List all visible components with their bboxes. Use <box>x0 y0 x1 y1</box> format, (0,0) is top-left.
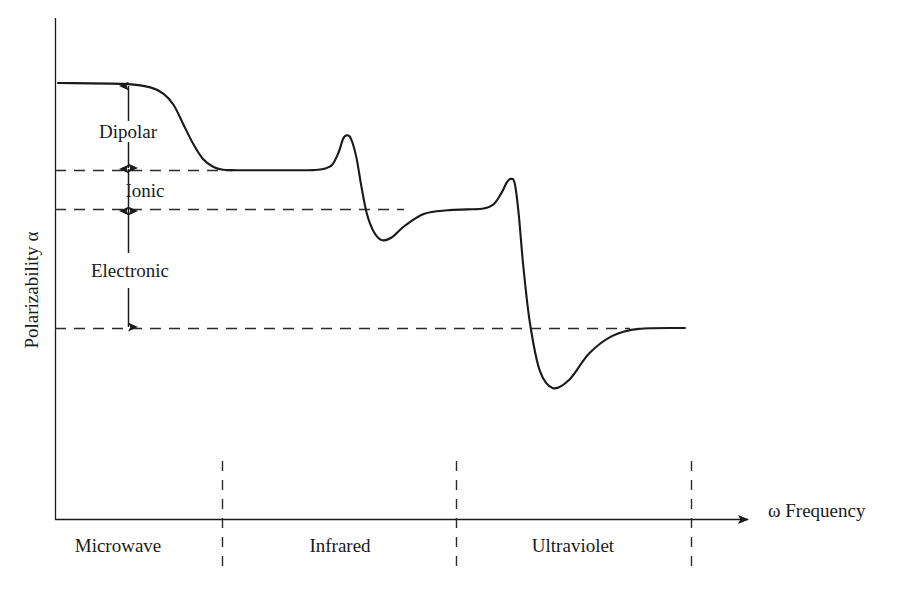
y-axis-label: Polarizability α <box>22 231 41 348</box>
x-axis-label: ω Frequency <box>768 501 865 520</box>
band-label-ultraviolet: Ultraviolet <box>532 536 614 555</box>
band-label-microwave: Microwave <box>75 536 162 555</box>
contribution-label-electronic: Electronic <box>91 261 169 280</box>
contribution-label-ionic: Ionic <box>125 181 164 200</box>
contribution-label-dipolar: Dipolar <box>99 122 157 141</box>
band-dividers <box>223 461 692 571</box>
figure-canvas: Polarizability α ω Frequency Dipolar Ion… <box>0 0 904 598</box>
band-label-infrared: Infrared <box>309 536 370 555</box>
